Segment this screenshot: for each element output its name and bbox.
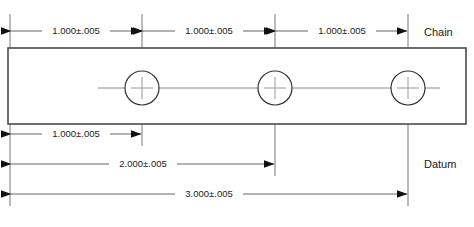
datum-dimension-1: 1.000±.005 [11,128,141,139]
datum-dimension-2: 2.000±.005 [11,158,274,169]
chain-dimension-1: 1.000±.005 [11,25,141,36]
chain-dimension-3: 1.000±.005 [276,25,407,36]
datum-dim-2-text: 2.000±.005 [119,158,166,169]
hole-2-group [258,71,292,105]
datum-dimension-3: 3.000±.005 [11,188,407,199]
chain-dim-3-text: 1.000±.005 [318,25,365,36]
hole-3-group [391,71,425,105]
engineering-drawing-canvas: 1.000±.005 1.000±.005 1.000±.005 Chain 1… [0,0,474,227]
datum-dim-1-text: 1.000±.005 [52,128,99,139]
chain-dim-1-text: 1.000±.005 [52,25,99,36]
dimension-drawing-svg: 1.000±.005 1.000±.005 1.000±.005 Chain 1… [0,0,474,227]
chain-dimension-2: 1.000±.005 [143,25,274,36]
chain-dim-2-text: 1.000±.005 [185,25,232,36]
datum-label: Datum [424,158,456,170]
datum-dim-3-text: 3.000±.005 [185,188,232,199]
hole-1-group [125,71,159,105]
chain-label: Chain [424,26,453,38]
